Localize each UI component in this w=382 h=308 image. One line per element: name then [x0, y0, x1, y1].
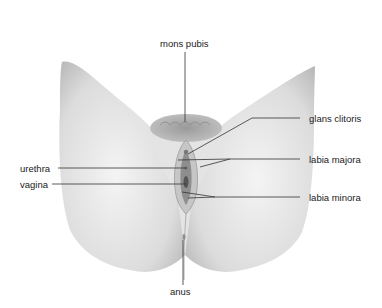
glans-clitoris-shape	[184, 150, 188, 154]
label-urethra: urethra	[20, 164, 50, 174]
label-mons-pubis: mons pubis	[160, 39, 209, 49]
label-anus: anus	[170, 287, 191, 297]
label-labia-majora: labia majora	[309, 155, 361, 165]
mons-pubis-region	[150, 114, 222, 142]
label-vagina: vagina	[20, 180, 48, 190]
vagina-opening	[184, 176, 189, 188]
label-glans-clitoris: glans clitoris	[309, 114, 361, 124]
label-labia-minora: labia minora	[309, 193, 361, 203]
anus-shape	[183, 234, 186, 240]
